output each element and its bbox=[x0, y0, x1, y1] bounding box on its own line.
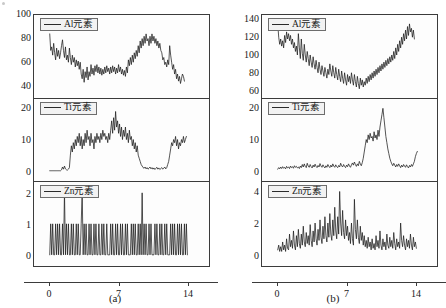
y-tick-label-a-zn-2: 2 bbox=[0, 189, 31, 199]
x-tick-b-0 bbox=[277, 282, 278, 286]
legend-label: Ti元素 bbox=[64, 102, 92, 113]
panel-a-al: Al元素 bbox=[34, 15, 209, 99]
y-tick-label-a-al-60: 60 bbox=[0, 57, 31, 67]
y-tick-label-b-zn-2: 2 bbox=[227, 219, 259, 229]
y-tick-label-a-al-40: 40 bbox=[0, 81, 31, 91]
y-tick-label-a-zn-1: 1 bbox=[0, 220, 31, 230]
x-tick-b-7 bbox=[347, 282, 348, 286]
legend-label: Zn元素 bbox=[64, 186, 94, 197]
legend-a-zn: Zn元素 bbox=[40, 185, 99, 198]
panel-b-zn: Zn元素 bbox=[262, 182, 437, 266]
y-tick-label-b-al-80: 80 bbox=[227, 68, 259, 78]
x-tick-a-14 bbox=[188, 282, 189, 286]
legend-label: Ti元素 bbox=[292, 102, 320, 113]
y-tick-label-b-zn-0: 0 bbox=[227, 251, 259, 261]
legend-label: Zn元素 bbox=[292, 186, 322, 197]
x-tick-a-7 bbox=[119, 282, 120, 286]
legend-b-zn: Zn元素 bbox=[268, 185, 327, 198]
y-tick-label-a-ti-20: 20 bbox=[0, 103, 31, 113]
y-tick-label-b-ti-10: 10 bbox=[227, 135, 259, 145]
panel-a-zn: Zn元素 bbox=[34, 182, 209, 266]
plot-frame-b: Al元素Ti元素Zn元素 bbox=[261, 14, 438, 267]
y-tick-label-a-ti-0: 0 bbox=[0, 167, 31, 177]
y-tick-label-b-al-120: 120 bbox=[227, 32, 259, 42]
y-tick-label-a-ti-10: 10 bbox=[0, 135, 31, 145]
data-line bbox=[278, 192, 417, 252]
subfigure-caption-b: (b) bbox=[226, 292, 440, 305]
data-line bbox=[50, 111, 187, 170]
legend-line-swatch bbox=[44, 191, 61, 192]
subfigure-caption-a: (a) bbox=[8, 292, 222, 305]
legend-line-swatch bbox=[272, 107, 289, 108]
y-tick-label-a-al-100: 100 bbox=[0, 9, 31, 19]
y-tick-label-a-zn-0: 0 bbox=[0, 251, 31, 261]
subfigure-b: 608010012014001020024Al元素Ti元素Zn元素0714(b) bbox=[214, 0, 428, 308]
y-tick-label-b-ti-20: 20 bbox=[227, 103, 259, 113]
legend-label: Al元素 bbox=[64, 19, 93, 30]
panel-b-ti: Ti元素 bbox=[262, 99, 437, 183]
legend-line-swatch bbox=[272, 191, 289, 192]
data-line bbox=[50, 192, 188, 256]
legend-line-swatch bbox=[44, 107, 61, 108]
legend-line-swatch bbox=[44, 24, 61, 25]
legend-b-ti: Ti元素 bbox=[268, 102, 325, 115]
data-line bbox=[50, 34, 185, 84]
panel-a-ti: Ti元素 bbox=[34, 99, 209, 183]
y-tick-label-b-al-100: 100 bbox=[227, 50, 259, 60]
x-tick-a-0 bbox=[49, 282, 50, 286]
x-tick-b-14 bbox=[416, 282, 417, 286]
y-tick-label-b-al-140: 140 bbox=[227, 14, 259, 24]
data-line bbox=[278, 24, 415, 89]
y-tick-label-b-al-60: 60 bbox=[227, 86, 259, 96]
legend-b-al: Al元素 bbox=[268, 18, 326, 31]
y-tick-label-a-al-80: 80 bbox=[0, 33, 31, 43]
legend-label: Al元素 bbox=[292, 19, 321, 30]
legend-a-ti: Ti元素 bbox=[40, 102, 97, 115]
plot-frame-a: Al元素Ti元素Zn元素 bbox=[33, 14, 210, 267]
subfigure-a: 40608010001020012Al元素Ti元素Zn元素0714(a) bbox=[0, 0, 214, 308]
legend-line-swatch bbox=[272, 24, 289, 25]
y-tick-label-b-ti-0: 0 bbox=[227, 167, 259, 177]
y-tick-label-b-zn-4: 4 bbox=[227, 187, 259, 197]
legend-a-al: Al元素 bbox=[40, 18, 98, 31]
panel-b-al: Al元素 bbox=[262, 15, 437, 99]
data-line bbox=[278, 108, 418, 169]
